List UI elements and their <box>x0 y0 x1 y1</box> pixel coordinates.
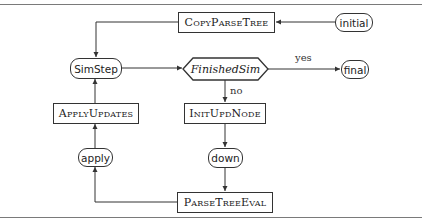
node-label: final <box>344 64 367 76</box>
node-parsetreeeval: ParseTreeEval <box>177 192 273 213</box>
node-label: ParseTreeEval <box>184 196 267 209</box>
node-label: SimStep <box>74 63 118 75</box>
node-label: initial <box>340 17 369 29</box>
node-label: CopyParseTree <box>185 16 269 29</box>
node-applyupdates: ApplyUpdates <box>53 103 139 124</box>
node-apply: apply <box>78 148 113 167</box>
node-label: FinishedSim <box>191 63 261 76</box>
node-down: down <box>208 148 243 168</box>
node-label: down <box>211 152 239 164</box>
edge-parsetreeeval-to-apply <box>95 167 177 202</box>
node-finishedsim: FinishedSim <box>190 58 261 80</box>
node-label: InitUpdNode <box>189 107 261 120</box>
edge-copyparsetree-to-simstep <box>96 22 178 57</box>
node-final: final <box>341 60 369 79</box>
node-label: apply <box>81 152 110 164</box>
edge-label-yes: yes <box>295 52 312 63</box>
node-initial: initial <box>335 13 373 32</box>
node-initupdnode: InitUpdNode <box>184 103 266 124</box>
node-copyparsetree: CopyParseTree <box>178 12 275 33</box>
flowchart: CopyParseTree ApplyUpdates InitUpdNode P… <box>0 0 422 219</box>
edge-label-no: no <box>230 85 242 96</box>
node-simstep: SimStep <box>70 58 122 79</box>
node-label: ApplyUpdates <box>59 107 133 120</box>
